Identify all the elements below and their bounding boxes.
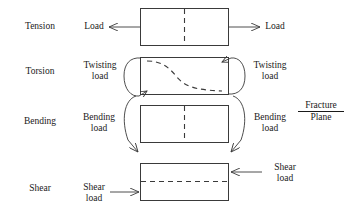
- torsion-left-load-label-line2: load: [77, 71, 123, 82]
- torsion-bar: [141, 58, 229, 95]
- torsion-left-twist-loop: [124, 58, 141, 96]
- row-label-bending: Bending: [14, 116, 66, 127]
- shear-left-load-label-line2: load: [74, 193, 114, 204]
- bending-specimen: [141, 106, 229, 143]
- torsion-specimen: [141, 58, 229, 95]
- row-label-torsion: Torsion: [14, 66, 66, 77]
- bending-left-load-arrow: [128, 140, 138, 152]
- shear-right-load-label-line1: Shear: [265, 162, 305, 173]
- bending-left-load-label-line1: Bending: [76, 112, 122, 123]
- bending-right-load-arc: [233, 96, 245, 140]
- shear-right-load-label-line2: load: [265, 173, 305, 184]
- bending-right-load-label-line1: Bending: [247, 112, 293, 123]
- torsion-fracture-plane-curve: [147, 61, 222, 91]
- fracture-plane-denominator: Plane: [298, 112, 344, 123]
- torsion-right-twist-arrow: [222, 58, 231, 62]
- bending-right-load-arrow: [231, 140, 241, 152]
- bending-left-load-arc: [124, 96, 136, 140]
- torsion-left-load-label-line1: Twisting: [77, 60, 123, 71]
- torsion-right-twist-loop: [228, 58, 245, 94]
- tension-specimen: [141, 9, 229, 46]
- torsion-right-load-label-line1: Twisting: [247, 60, 293, 71]
- bending-right-load-label-line2: load: [247, 123, 293, 134]
- row-label-shear: Shear: [14, 183, 66, 194]
- shear-left-load-label-line1: Shear: [74, 182, 114, 193]
- bending-left-load-label-line2: load: [76, 123, 122, 134]
- torsion-right-load-label-line2: load: [247, 71, 293, 82]
- row-label-tension: Tension: [14, 21, 66, 32]
- shear-specimen: [141, 164, 229, 201]
- tension-right-load-label: Load: [262, 21, 288, 32]
- tension-left-load-label: Load: [81, 21, 107, 32]
- fracture-plane-annotation: Fracture Plane: [298, 100, 344, 123]
- fracture-plane-numerator: Fracture: [298, 100, 344, 112]
- fracture-modes-diagram: Tension Torsion Bending Shear Load Load …: [0, 0, 356, 218]
